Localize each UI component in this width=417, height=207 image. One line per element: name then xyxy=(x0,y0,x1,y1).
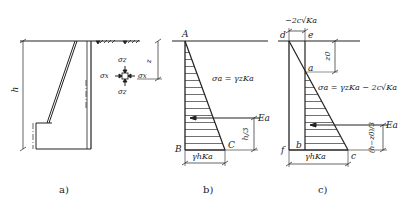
label-sigma-x-left: σx xyxy=(100,73,109,80)
label-depth-z: z xyxy=(146,60,153,64)
caption-c: c) xyxy=(318,185,328,195)
label-sigma-x-right: σx xyxy=(138,73,147,80)
label-point-f: f xyxy=(281,146,284,155)
caption-a: a) xyxy=(59,185,69,195)
label-resultant-Ea-b: Ea xyxy=(258,114,270,123)
label-point-d: d xyxy=(280,31,286,40)
label-point-B: B xyxy=(175,145,182,154)
diagram-drawing xyxy=(0,0,417,207)
label-crack-depth-z0: z0 xyxy=(324,51,332,60)
earth-pressure-diagram: h σz σz σx σx z a) A B C σa = γzKa Ea h/… xyxy=(0,0,417,207)
label-point-a: a xyxy=(308,64,313,73)
caption-b: b) xyxy=(203,185,213,195)
label-top-value: −2c√Ka xyxy=(285,17,317,25)
label-equation-c: σa = γzKa − 2c√Ka xyxy=(318,84,397,92)
label-point-c: c xyxy=(351,152,356,161)
label-point-A: A xyxy=(182,30,189,39)
label-sigma-z-bottom: σz xyxy=(118,89,126,96)
label-h-over-3: h/3 xyxy=(242,128,250,141)
figure-b-pressure xyxy=(172,41,268,166)
label-sigma-z-top: σz xyxy=(118,57,126,64)
label-base-c: γhKa xyxy=(305,153,326,161)
label-height-h: h xyxy=(11,87,20,93)
label-resultant-Ea-c: Ea xyxy=(386,121,398,130)
label-point-C: C xyxy=(228,141,235,150)
label-point-b: b xyxy=(296,141,302,150)
label-base-b: γhKa xyxy=(192,153,213,161)
label-equation-b: σa = γzKa xyxy=(212,75,254,83)
label-point-e: e xyxy=(308,31,313,40)
figure-a-wall xyxy=(20,39,162,151)
label-h-minus-z0-over-3: (h−z0)/3 xyxy=(369,122,376,153)
